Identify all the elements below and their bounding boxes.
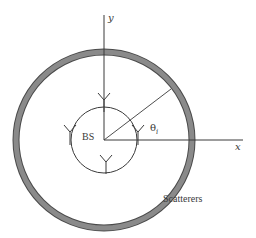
- x-axis-label: x: [235, 142, 241, 152]
- angle-label: θi: [150, 123, 158, 136]
- antenna-icon-left: [64, 125, 76, 145]
- base-station-label: BS: [82, 132, 94, 142]
- y-axis-label: y: [108, 13, 114, 23]
- scatterer-diagram: [0, 0, 256, 238]
- antenna-icon-right: [132, 125, 144, 145]
- scatterers-label: Scatterers: [163, 194, 202, 204]
- angle-subscript: i: [156, 128, 158, 136]
- antenna-icon-bottom: [100, 155, 112, 174]
